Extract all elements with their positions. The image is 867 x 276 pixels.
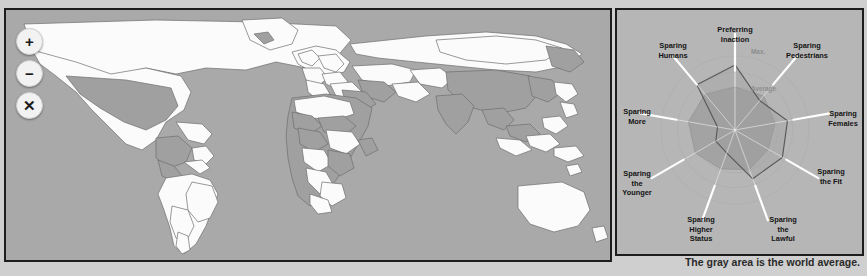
svg-text:Females: Females	[828, 119, 858, 128]
svg-text:Average: Average	[751, 85, 776, 93]
world-map-graphic[interactable]	[6, 10, 610, 260]
zoom-out-button[interactable]: −	[16, 60, 43, 87]
svg-text:Sparing: Sparing	[623, 107, 651, 116]
svg-text:Lawful: Lawful	[771, 234, 794, 243]
svg-text:the: the	[777, 225, 788, 234]
zoom-in-button[interactable]: +	[16, 28, 43, 55]
radar-chart-panel[interactable]: Max.AveragePreferringInactionSparingPede…	[615, 8, 864, 256]
close-button[interactable]: ✕	[16, 92, 43, 119]
svg-text:Status: Status	[690, 234, 713, 243]
svg-text:Sparing: Sparing	[817, 167, 845, 176]
world-map-panel[interactable]: + − ✕	[4, 8, 612, 262]
svg-text:Humans: Humans	[658, 51, 687, 60]
svg-text:Sparing: Sparing	[769, 215, 797, 224]
svg-text:Sparing: Sparing	[793, 41, 821, 50]
svg-text:Max.: Max.	[751, 48, 765, 55]
svg-text:More: More	[628, 117, 646, 126]
svg-text:Younger: Younger	[622, 188, 652, 197]
svg-text:Sparing: Sparing	[659, 41, 687, 50]
svg-text:the: the	[631, 179, 642, 188]
map-controls[interactable]: + − ✕	[16, 28, 43, 119]
radar-chart-graphic: Max.AveragePreferringInactionSparingPede…	[617, 10, 862, 254]
svg-text:Sparing: Sparing	[687, 215, 715, 224]
svg-text:the Fit: the Fit	[820, 177, 843, 186]
svg-text:Pedestrians: Pedestrians	[786, 51, 828, 60]
svg-text:Preferring: Preferring	[717, 25, 753, 34]
svg-text:Inaction: Inaction	[721, 35, 750, 44]
svg-text:Sparing: Sparing	[623, 169, 651, 178]
svg-text:Higher: Higher	[689, 225, 713, 234]
svg-text:Sparing: Sparing	[829, 109, 857, 118]
chart-caption: The gray area is the world average.	[615, 256, 860, 268]
